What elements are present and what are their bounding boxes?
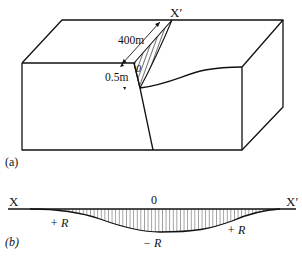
left-value-label: + R — [50, 217, 68, 229]
fault-diagram — [0, 0, 302, 256]
block-right-face — [242, 20, 283, 150]
right-value-label: + R — [227, 224, 245, 236]
offset-label: 0.5m — [105, 72, 128, 84]
endpoint-label-x-prime: X′ — [170, 6, 182, 19]
center-value-label: − R — [143, 237, 161, 249]
profile-right-label: X′ — [286, 195, 298, 208]
panel-label-a: (a) — [5, 156, 18, 168]
displaced-surface — [140, 67, 242, 88]
profile-center-label: 0 — [151, 194, 157, 206]
panel-label-b: (b) — [5, 236, 19, 248]
length-label: 400m — [118, 35, 144, 47]
fault-trace — [140, 88, 153, 150]
origin-label: 0 — [136, 64, 141, 74]
profile-left-label: X — [9, 195, 18, 208]
block-front-face — [22, 63, 242, 150]
block-diagram — [22, 20, 283, 150]
